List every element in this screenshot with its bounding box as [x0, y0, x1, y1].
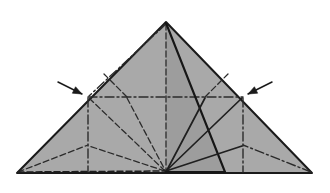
origami-diagram-root — [0, 0, 330, 193]
origami-crease-pattern-svg — [0, 0, 330, 193]
